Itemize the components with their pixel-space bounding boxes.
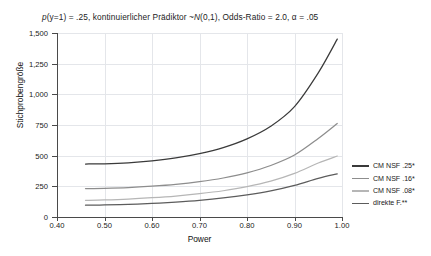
series-line xyxy=(86,174,338,205)
series-curves xyxy=(57,33,342,217)
legend-item[interactable]: CM NSF .25* xyxy=(352,160,431,172)
x-tick-label: 0.60 xyxy=(145,221,160,230)
legend-color-swatch xyxy=(352,178,369,180)
legend-item[interactable]: CM NSF .16* xyxy=(352,172,431,184)
legend-label: CM NSF .08* xyxy=(373,187,415,195)
x-tick-label: 0.50 xyxy=(97,221,112,230)
chart-title-text: p(y=1) = .25, kontinuierlicher Prädiktor… xyxy=(42,12,318,22)
y-tick-label: 0 xyxy=(0,213,48,222)
x-tick-label: 0.90 xyxy=(287,221,302,230)
chart-page: p(y=1) = .25, kontinuierlicher Prädiktor… xyxy=(0,0,431,256)
legend-label: direkte F.** xyxy=(373,199,407,207)
legend-color-swatch xyxy=(352,190,369,192)
chart-title: p(y=1) = .25, kontinuierlicher Prädiktor… xyxy=(42,12,318,22)
gridline-vertical xyxy=(342,33,343,217)
legend-color-swatch xyxy=(352,165,369,167)
series-line xyxy=(86,124,338,189)
legend-color-swatch xyxy=(352,203,369,205)
y-tick-label: 250 xyxy=(0,182,48,191)
legend-item[interactable]: CM NSF .08* xyxy=(352,185,431,197)
x-tick-label: 0.80 xyxy=(240,221,255,230)
x-axis-title: Power xyxy=(57,234,342,244)
chart-legend: CM NSF .25*CM NSF .16*CM NSF .08*direkte… xyxy=(352,160,431,210)
legend-label: CM NSF .25* xyxy=(373,162,415,170)
legend-label: CM NSF .16* xyxy=(373,175,415,183)
x-tick-label: 1.00 xyxy=(335,221,350,230)
legend-item[interactable]: direkte F.** xyxy=(352,197,431,209)
series-line xyxy=(86,39,338,164)
x-tick-label: 0.40 xyxy=(50,221,65,230)
y-axis-title: Stichprobengröße xyxy=(15,35,25,155)
x-tick-label: 0.70 xyxy=(192,221,207,230)
